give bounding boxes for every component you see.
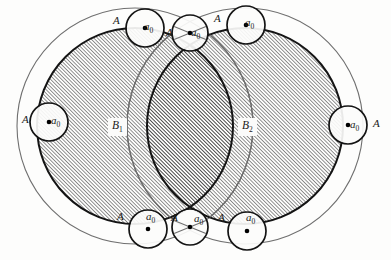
- A-label-right-side: A: [373, 118, 380, 129]
- small-circle-left-side: [30, 103, 68, 141]
- A-label-bottom-right: A: [218, 212, 225, 223]
- a0-label-left-side: a0: [51, 115, 60, 129]
- center-dot-bottom-left: [146, 227, 151, 232]
- A-label-bottom-left: A: [117, 211, 124, 222]
- figure-container: a0Aa0Aa0Aa0Aa0Aa0Aa0Aa0AB1B2: [0, 0, 391, 260]
- A-label-left-side: A: [22, 114, 29, 125]
- center-dot-bottom-center: [188, 225, 193, 230]
- a0-label-top-right: a0: [245, 17, 254, 31]
- a0-label-bottom-right: a0: [246, 212, 255, 226]
- small-circle-top-center: [172, 15, 208, 51]
- A-label-top-right: A: [214, 13, 221, 24]
- A-label-top-left: A: [113, 15, 120, 26]
- small-circle-right-side: [329, 106, 367, 144]
- A-label-bottom-center: A: [171, 212, 178, 223]
- a0-label-top-center: a0: [191, 27, 200, 41]
- a0-label-bottom-center: a0: [194, 213, 203, 227]
- hatched-discs-group: [37, 28, 343, 224]
- a0-label-bottom-left: a0: [146, 211, 155, 225]
- disc-label-B1: B1: [108, 118, 127, 136]
- A-label-top-center: A: [166, 27, 173, 38]
- a0-label-top-left: a0: [144, 21, 153, 35]
- disc-label-B2: B2: [238, 118, 257, 136]
- center-dot-bottom-right: [245, 229, 250, 234]
- a0-label-right-side: a0: [350, 119, 359, 133]
